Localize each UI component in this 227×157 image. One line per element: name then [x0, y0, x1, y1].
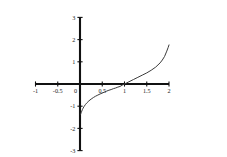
x-tick-label: -1: [33, 87, 38, 94]
x-tick-label: -0.5: [53, 87, 63, 94]
x-tick-label: 2: [167, 87, 170, 94]
line-chart: -1-0.500.511.52 321-1-2-3: [0, 0, 227, 157]
x-tick-label: 0: [74, 87, 77, 94]
chart-container: -1-0.500.511.52 321-1-2-3: [0, 0, 227, 157]
chart-background: [0, 0, 227, 157]
y-tick-label: -1: [70, 102, 75, 109]
x-tick-label: 1.5: [143, 87, 151, 94]
y-tick-label: -3: [70, 147, 75, 154]
y-tick-label: -2: [70, 125, 75, 132]
y-tick-label: 1: [72, 58, 75, 65]
y-tick-label: 3: [72, 14, 75, 21]
y-tick-label: 2: [72, 36, 75, 43]
x-tick-label: 1: [123, 87, 126, 94]
